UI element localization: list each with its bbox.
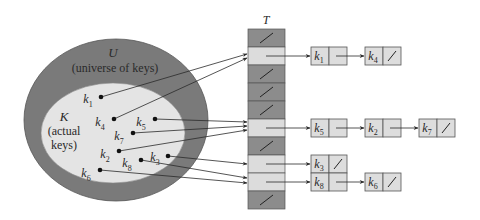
key-dot-icon — [117, 149, 122, 154]
table-slot-2 — [248, 65, 285, 83]
hash-table-diagram: U (universe of keys) K (actual keys) T k… — [0, 0, 480, 220]
key-dot-icon — [99, 95, 104, 100]
linked-list-chains: k1k4k5k2k7k3k8k6 — [266, 47, 455, 191]
key-dot-icon — [131, 131, 136, 136]
table-slot-4 — [248, 101, 285, 119]
actual-keys-set: K (actual keys) — [41, 83, 185, 183]
list-node-k6: k6 — [365, 173, 401, 191]
key-dot-icon — [139, 158, 144, 163]
chain-slot-1: k1k4 — [266, 47, 401, 65]
table-slot-9 — [248, 191, 285, 209]
table-label: T — [263, 13, 271, 27]
list-node-k5: k5 — [311, 119, 364, 137]
list-node-k8: k8 — [311, 173, 364, 191]
list-node-k2: k2 — [365, 119, 418, 137]
key-dot-icon — [112, 117, 117, 122]
universe-caption: (universe of keys) — [72, 61, 159, 75]
list-node-k1: k1 — [311, 47, 364, 65]
table-slot-6 — [248, 137, 285, 155]
key-dot-icon — [153, 117, 158, 122]
actual-keys-symbol: K — [59, 109, 70, 124]
key-dot-icon — [98, 168, 103, 173]
list-node-k7: k7 — [419, 119, 455, 137]
chain-slot-5: k5k2k7 — [266, 119, 455, 137]
actual-keys-caption-2: keys) — [51, 138, 77, 152]
list-node-k4: k4 — [365, 47, 401, 65]
list-node-k3: k3 — [311, 155, 347, 173]
chain-slot-8: k8k6 — [266, 173, 401, 191]
actual-keys-caption-1: (actual — [48, 124, 81, 138]
table-slot-3 — [248, 83, 285, 101]
key-dot-icon — [166, 154, 171, 159]
table-slot-0 — [248, 29, 285, 47]
universe-symbol: U — [108, 45, 119, 60]
